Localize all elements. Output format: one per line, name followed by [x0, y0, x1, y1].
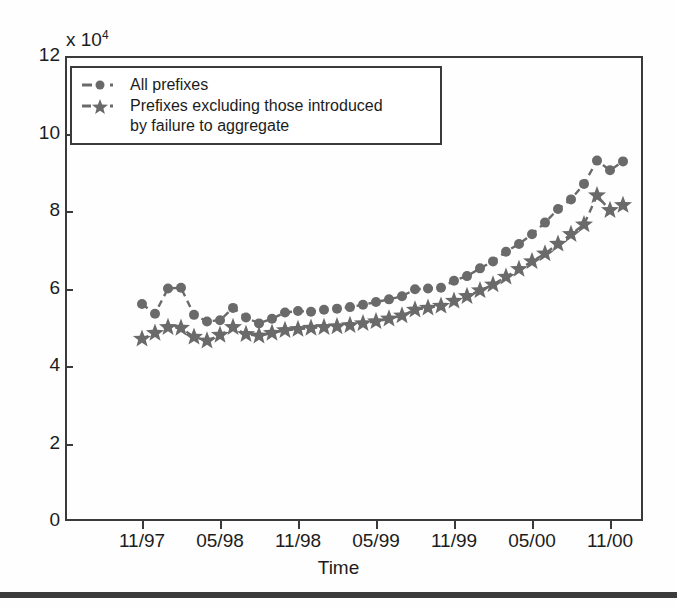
data-point-circle [150, 309, 160, 319]
y-axis-multiplier-text: x 10 [66, 29, 102, 50]
data-point-circle [423, 284, 433, 294]
data-point-star [289, 320, 307, 337]
data-point-circle [501, 247, 511, 257]
page-edge-bar [0, 592, 677, 598]
data-point-circle [436, 283, 446, 293]
data-point-circle [176, 283, 186, 293]
y-axis-multiplier: x 104 [66, 28, 109, 51]
data-point-star [588, 186, 606, 203]
data-point-circle [605, 165, 615, 175]
x-tick-mark [532, 521, 534, 529]
data-point-circle [618, 156, 628, 166]
data-point-circle [592, 156, 602, 166]
y-tick-label: 6 [16, 278, 60, 297]
figure-chart: x 104 121086420 11/9705/9811/9805/9911/9… [0, 0, 677, 608]
x-tick-label: 11/99 [414, 530, 494, 551]
x-tick-mark [142, 521, 144, 529]
legend-label-excluding-prefixes: Prefixes excluding those introduced by f… [130, 96, 383, 136]
data-point-circle [267, 314, 277, 324]
data-point-star [185, 327, 203, 344]
data-point-circle [293, 306, 303, 316]
y-tick-label: 4 [16, 355, 60, 374]
chart-legend: All prefixes Prefixes excluding those in… [70, 66, 442, 145]
data-point-star [250, 326, 268, 343]
data-point-circle [462, 271, 472, 281]
y-tick-label: 12 [16, 45, 60, 64]
data-point-star [276, 321, 294, 338]
data-point-circle [241, 313, 251, 323]
data-point-star [315, 318, 333, 335]
data-point-circle [319, 305, 329, 315]
data-point-star [302, 319, 320, 336]
data-point-circle [280, 308, 290, 318]
legend-entry-excluding-prefixes: Prefixes excluding those introduced by f… [80, 96, 432, 136]
data-point-circle [189, 310, 199, 320]
data-point-circle [527, 229, 537, 239]
data-point-circle [514, 239, 524, 249]
x-tick-label: 05/00 [492, 530, 572, 551]
x-tick-label: 11/97 [102, 530, 182, 551]
data-point-circle [345, 302, 355, 312]
data-point-circle [163, 284, 173, 294]
data-point-star [341, 316, 359, 333]
y-axis-multiplier-exponent: 4 [102, 28, 109, 42]
data-point-circle [215, 315, 225, 325]
data-point-star [484, 275, 502, 292]
y-axis-labels: 121086420 [10, 0, 60, 608]
data-point-star [367, 312, 385, 329]
data-point-circle [488, 256, 498, 266]
data-point-star [328, 317, 346, 334]
data-point-circle [358, 300, 368, 310]
legend-label-all-prefixes: All prefixes [130, 75, 208, 95]
x-tick-mark [220, 521, 222, 529]
data-point-star [211, 326, 229, 343]
data-point-circle [410, 284, 420, 294]
data-point-circle [579, 179, 589, 189]
legend-entry-all-prefixes: All prefixes [80, 75, 432, 95]
x-tick-mark [298, 521, 300, 529]
x-tick-mark [454, 521, 456, 529]
data-point-circle [371, 297, 381, 307]
y-tick-label: 8 [16, 200, 60, 219]
star-marker-icon [80, 96, 130, 116]
data-point-circle [332, 304, 342, 314]
x-tick-label: 05/98 [180, 530, 260, 551]
data-point-star [562, 225, 580, 242]
x-axis-title: Time [0, 557, 677, 579]
y-tick-label: 2 [16, 433, 60, 452]
data-point-circle [475, 263, 485, 273]
data-point-star [406, 300, 424, 317]
data-point-circle [137, 299, 147, 309]
data-point-circle [202, 316, 212, 326]
data-point-circle [228, 303, 238, 313]
x-tick-mark [610, 521, 612, 529]
data-point-circle [540, 218, 550, 228]
x-tick-mark [376, 521, 378, 529]
x-tick-label: 11/00 [570, 530, 650, 551]
data-point-circle [566, 194, 576, 204]
data-point-star [614, 196, 632, 213]
circle-marker-icon [80, 75, 130, 95]
data-point-star [419, 298, 437, 315]
data-point-star [380, 309, 398, 326]
x-tick-label: 11/98 [258, 530, 338, 551]
x-tick-label: 05/99 [336, 530, 416, 551]
data-point-star [263, 324, 281, 341]
data-point-circle [397, 291, 407, 301]
data-point-circle [449, 276, 459, 286]
y-tick-label: 0 [16, 510, 60, 529]
data-point-circle [553, 204, 563, 214]
data-point-circle [384, 294, 394, 304]
data-point-star [354, 314, 372, 331]
y-tick-label: 10 [16, 123, 60, 142]
data-point-circle [306, 307, 316, 317]
